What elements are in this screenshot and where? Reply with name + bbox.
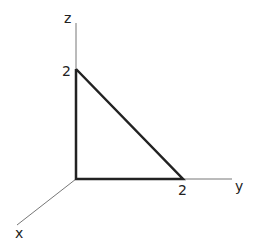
z-intercept-label: 2 [62,63,71,79]
z-axis-label: z [64,10,71,26]
x-axis [17,179,76,225]
triangle [76,69,183,179]
y-intercept-label: 2 [178,182,187,198]
x-axis-label: x [15,225,23,241]
diagram-canvas: z y x 2 2 [0,0,254,252]
y-axis-label: y [235,178,243,194]
axes-diagram: z y x 2 2 [0,0,254,252]
